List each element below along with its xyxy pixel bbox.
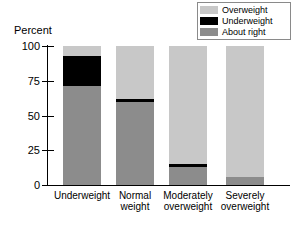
- y-axis-title: Percent: [14, 25, 52, 36]
- y-tick-label-25: 25: [28, 145, 40, 156]
- legend-swatch-about-right: [200, 28, 218, 36]
- bar-normal-weight[interactable]: [116, 46, 154, 185]
- bar-segment-overweight: [169, 46, 207, 164]
- legend-swatch-overweight: [200, 6, 218, 14]
- legend-label-underweight: Underweight: [222, 17, 273, 26]
- bar-underweight[interactable]: [63, 46, 101, 185]
- bar-segment-overweight: [116, 46, 154, 99]
- y-tick-label-0: 0: [34, 180, 40, 191]
- bar-severely-overweight[interactable]: [226, 46, 264, 185]
- y-tick-label-75: 75: [28, 76, 40, 87]
- bar-segment-about-right: [226, 177, 264, 185]
- bar-segment-overweight: [63, 46, 101, 56]
- legend-label-overweight: Overweight: [222, 6, 268, 15]
- y-tick-label-100: 100: [22, 41, 40, 52]
- x-axis-line: [42, 185, 290, 186]
- bar-segment-underweight: [63, 56, 101, 87]
- y-tick-0: [42, 185, 54, 186]
- plot-area: [48, 46, 285, 185]
- x-label-severely-overweight: Severelyoverweight: [209, 190, 281, 212]
- legend-item-about-right: About right: [200, 27, 287, 37]
- legend-swatch-underweight: [200, 17, 218, 25]
- bar-segment-about-right: [169, 167, 207, 185]
- legend-label-about-right: About right: [222, 28, 266, 37]
- legend-item-overweight: Overweight: [200, 5, 287, 15]
- bar-moderately-overweight[interactable]: [169, 46, 207, 185]
- legend-item-underweight: Underweight: [200, 16, 287, 26]
- bar-segment-overweight: [226, 46, 264, 177]
- chart-legend: Overweight Underweight About right: [197, 2, 291, 40]
- bar-segment-about-right: [116, 102, 154, 185]
- y-tick-label-50: 50: [28, 111, 40, 122]
- bar-segment-about-right: [63, 86, 101, 185]
